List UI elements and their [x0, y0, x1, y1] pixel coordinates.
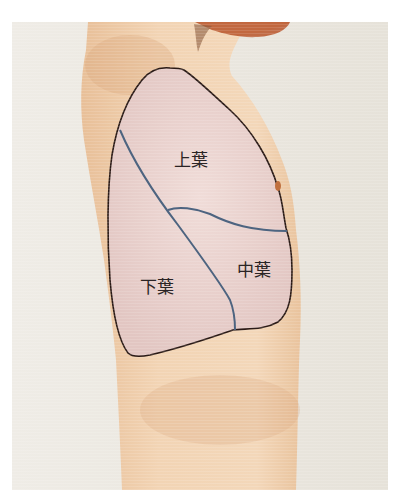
middle-lobe-label: 中葉	[237, 260, 271, 280]
nipple	[275, 181, 281, 191]
lower-lobe-label: 下葉	[140, 277, 174, 297]
lung-lobes-figure: 上葉 中葉 下葉	[0, 0, 405, 495]
upper-lobe-label: 上葉	[174, 150, 208, 170]
